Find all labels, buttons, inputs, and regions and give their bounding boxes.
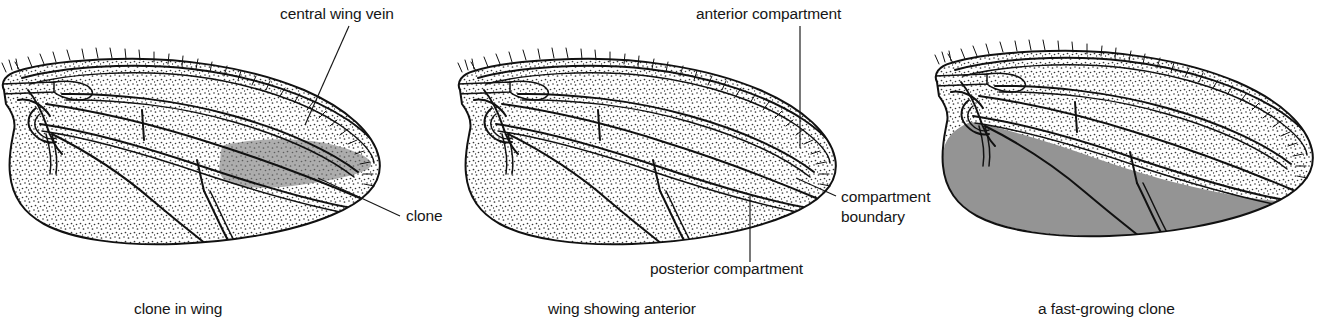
caption-panel-3: a fast-growing clone xyxy=(1038,300,1175,317)
label-clone: clone xyxy=(406,207,443,224)
hinge-bristles-1 xyxy=(2,59,18,72)
label-central-wing-vein: central wing vein xyxy=(280,5,394,22)
label-compartment-boundary-line1: compartment xyxy=(841,188,931,205)
wing-drawing-1 xyxy=(0,48,382,244)
label-anterior-compartment: anterior compartment xyxy=(696,5,842,22)
panel-clone-in-wing: central wing vein clone clone in wing xyxy=(0,5,443,317)
wing-drawing-3 xyxy=(933,40,1315,236)
caption-panel-1: clone in wing xyxy=(134,300,222,317)
label-posterior-compartment: posterior compartment xyxy=(650,260,804,277)
hinge-bristles-2 xyxy=(458,59,474,72)
panel-fast-growing-clone: a fast-growing clone xyxy=(933,40,1315,317)
caption-panel-2: wing showing anterior xyxy=(547,300,696,317)
wing-compartment-figure: central wing vein clone clone in wing xyxy=(0,0,1330,319)
figure-canvas: central wing vein clone clone in wing xyxy=(0,0,1330,319)
label-compartment-boundary-line2: boundary xyxy=(841,208,905,225)
wing-drawing-2 xyxy=(456,48,838,244)
hinge-bristles-3 xyxy=(935,51,951,64)
panel-anterior-posterior: anterior compartment compartment boundar… xyxy=(456,5,931,317)
